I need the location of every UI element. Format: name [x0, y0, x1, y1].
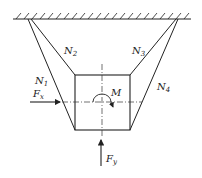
free-body-diagram: N1 N2 N3 N4 Fx Fy M — [0, 0, 202, 178]
label-n2: N2 — [63, 45, 78, 58]
rigid-block — [75, 75, 130, 130]
label-n4: N4 — [156, 81, 170, 94]
label-n1: N1 — [34, 75, 48, 88]
label-moment: M — [110, 87, 122, 98]
label-n3: N3 — [131, 45, 146, 58]
label-fy: Fy — [105, 153, 118, 166]
label-fx: Fx — [32, 88, 44, 101]
moment-arrow — [93, 94, 113, 107]
member-n4 — [130, 19, 178, 130]
ceiling-support — [13, 13, 191, 19]
